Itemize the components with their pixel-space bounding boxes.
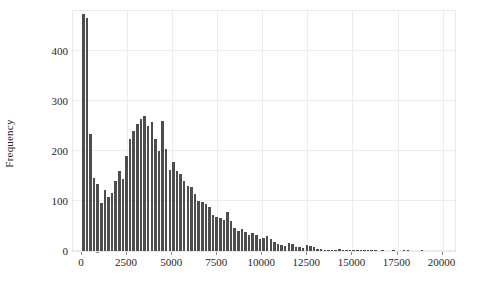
x-axis-tick-mark xyxy=(261,252,262,255)
x-axis-tick-mark xyxy=(442,252,443,255)
x-axis-tick-mark xyxy=(351,252,352,255)
histogram-figure: Frequency 0100200300400 0250050007500100… xyxy=(0,0,481,287)
x-axis-tick-label: 20000 xyxy=(412,256,472,268)
x-axis-tick-container: 02500500075001000012500150001750020000 xyxy=(0,0,481,287)
x-axis-tick-mark xyxy=(171,252,172,255)
x-axis-label xyxy=(72,274,456,287)
x-axis-tick-mark xyxy=(216,252,217,255)
x-axis-tick-mark xyxy=(306,252,307,255)
x-axis-tick-mark xyxy=(126,252,127,255)
x-axis-tick-mark xyxy=(397,252,398,255)
x-axis-tick-mark xyxy=(81,252,82,255)
